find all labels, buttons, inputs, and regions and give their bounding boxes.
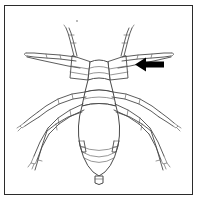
aphid-line-drawing bbox=[0, 0, 202, 210]
foreleg-left-icon bbox=[17, 92, 86, 131]
figure-panel bbox=[0, 0, 202, 210]
antenna-right-icon bbox=[108, 25, 174, 80]
plate-speck bbox=[76, 20, 78, 22]
antenna-left-icon bbox=[24, 25, 90, 80]
cauda-icon bbox=[95, 176, 103, 185]
foreleg-right-icon bbox=[112, 92, 181, 131]
thorax-icon bbox=[82, 78, 116, 106]
abdomen-icon bbox=[78, 104, 119, 177]
